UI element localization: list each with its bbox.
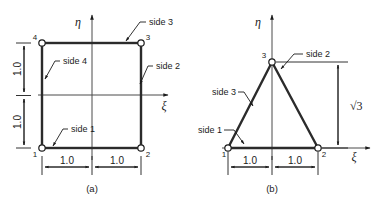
node-2-label-b: 2: [322, 150, 327, 159]
panel-b-axes: η ξ: [222, 15, 370, 164]
side3-leader-b: [244, 92, 253, 106]
side-2-label-a: side 2: [156, 61, 180, 71]
node-3-marker-a: [138, 40, 144, 46]
side3-leader-a: [126, 22, 140, 41]
side-3-label-a: side 3: [149, 17, 173, 27]
panel-a-group: η ξ 1 2 3 4 side 3: [12, 15, 180, 194]
node-3-label-a: 3: [146, 33, 151, 42]
side4-leader-a: [45, 61, 55, 79]
side2-leader-b: [281, 54, 294, 69]
panel-a-side4-callout: side 4: [45, 56, 87, 79]
node-4-marker-a: [39, 40, 45, 46]
node-2-marker-b: [315, 145, 321, 151]
side-1-label-b: side 1: [198, 125, 222, 135]
hdim-right-label-b: 1.0: [288, 155, 302, 166]
side-3-label-b: side 3: [212, 87, 236, 97]
panel-b-group: η ξ 1 2 3 side 2: [198, 15, 370, 194]
technical-diagram: η ξ 1 2 3 4 side 3: [0, 0, 383, 205]
panel-b-side3-callout: side 3: [212, 87, 253, 106]
panel-b-side2-callout: side 2: [281, 49, 330, 69]
panel-a-side2-callout: side 2: [140, 61, 180, 84]
side-4-label-a: side 4: [63, 56, 87, 66]
vdim-upper-label-a: 1.0: [12, 62, 23, 76]
side-2-label-b: side 2: [306, 49, 330, 59]
node-1-label-a: 1: [33, 150, 38, 159]
node-2-marker-a: [138, 145, 144, 151]
vdim-lower-label-a: 1.0: [12, 115, 23, 129]
hdim-right-label-a: 1.0: [110, 155, 124, 166]
node-4-label-a: 4: [33, 33, 38, 42]
height-dim-label-b: √3: [350, 99, 363, 113]
triangle-element-outline: [228, 62, 318, 148]
side1-leader-a: [53, 129, 63, 146]
xi-axis-label-a: ξ: [161, 99, 167, 113]
node-1-label-b: 1: [222, 150, 227, 159]
caption-b: (b): [266, 183, 278, 194]
node-1-marker-a: [39, 145, 45, 151]
panel-b-horizontal-dimensions: 1.0 1.0: [228, 152, 318, 175]
panel-a-side1-callout: side 1: [53, 124, 95, 146]
panel-b-height-dimension: √3: [276, 62, 363, 148]
hdim-left-label-b: 1.0: [243, 155, 257, 166]
node-3-marker-b: [269, 59, 275, 65]
caption-a: (a): [86, 183, 98, 194]
figure-container: η ξ 1 2 3 4 side 3: [0, 0, 383, 205]
node-2-label-a: 2: [146, 150, 151, 159]
eta-axis-label-a: η: [75, 15, 81, 29]
side1-leader-b: [234, 130, 244, 144]
node-3-label-b: 3: [262, 51, 267, 60]
panel-a-vertical-dimensions: 1.0 1.0: [12, 43, 31, 148]
xi-axis-label-b: ξ: [351, 150, 357, 164]
eta-axis-label-b: η: [255, 15, 261, 29]
hdim-left-label-a: 1.0: [60, 155, 74, 166]
side-1-label-a: side 1: [71, 124, 95, 134]
